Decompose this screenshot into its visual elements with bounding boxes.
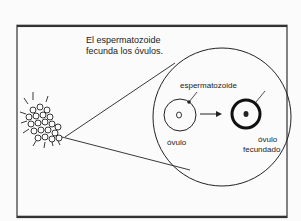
caption-line-1: El espermatozoide	[86, 35, 161, 45]
ovum-nucleus-icon	[177, 112, 182, 118]
fertilized-nucleus-icon	[244, 111, 249, 117]
ovum-cluster-icon	[20, 92, 62, 148]
caption-line-2: fecunda los óvulos.	[86, 46, 163, 56]
fertilized-label-line-1: óvulo	[258, 135, 278, 144]
arrowhead-icon	[216, 111, 222, 117]
fertilization-diagram: El espermatozoide fecunda los óvulos. es…	[0, 0, 301, 221]
ovum-icon	[164, 99, 196, 131]
fertilized-pointer	[256, 91, 265, 102]
zoom-line-top	[65, 63, 175, 137]
sperm-label: espermatozoide	[180, 81, 237, 90]
magnified-circle	[153, 48, 291, 186]
fertilized-label-line-2: fecundado	[243, 145, 281, 154]
ovum-label: óvulo	[167, 138, 187, 147]
sperm-pointer	[189, 92, 197, 102]
